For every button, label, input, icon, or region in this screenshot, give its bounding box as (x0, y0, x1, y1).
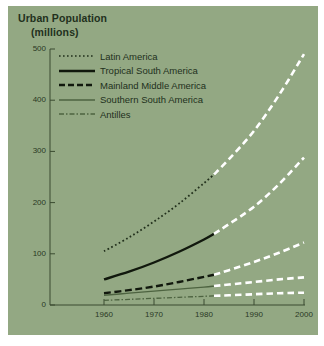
solid-thick-line-swatch (58, 65, 96, 77)
x-axis-tick-label: 1980 (189, 310, 219, 319)
x-axis-tick-label: 2000 (289, 310, 319, 319)
y-axis-tick-label: 100 (20, 249, 46, 258)
legend-label: Tropical South America (96, 65, 198, 76)
dash-dot-line-swatch (58, 108, 96, 120)
legend-item-mainland-middle-america: Mainland Middle America (58, 78, 206, 93)
y-axis-tick-label: 0 (20, 300, 46, 309)
chart-legend: Latin America Tropical South America Mai… (58, 49, 206, 122)
y-axis-tick-label: 500 (20, 44, 46, 53)
legend-label: Latin America (96, 51, 158, 62)
legend-item-tropical-south-america: Tropical South America (58, 64, 206, 79)
x-axis-tick-label: 1990 (239, 310, 269, 319)
legend-label: Antilles (96, 109, 131, 120)
legend-item-southern-south-america: Southern South America (58, 93, 206, 108)
legend-label: Mainland Middle America (96, 80, 206, 91)
x-axis-tick-label: 1960 (89, 310, 119, 319)
x-axis-tick-label: 1970 (139, 310, 169, 319)
legend-item-antilles: Antilles (58, 107, 206, 122)
legend-label: Southern South America (96, 94, 203, 105)
dashed-line-swatch (58, 79, 96, 91)
y-axis-tick-label: 300 (20, 146, 46, 155)
y-axis-tick-label: 200 (20, 198, 46, 207)
solid-thin-line-swatch (58, 94, 96, 106)
y-axis-tick-label: 400 (20, 95, 46, 104)
dotted-line-swatch (58, 50, 96, 62)
legend-item-latin-america: Latin America (58, 49, 206, 64)
figure-container: Urban Population (millions) Latin Americ… (0, 0, 324, 346)
